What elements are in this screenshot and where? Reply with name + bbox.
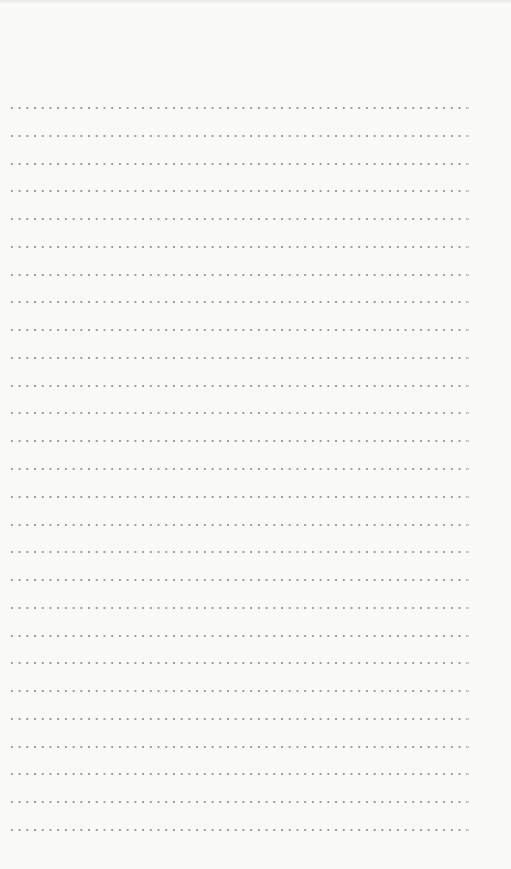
- dotted-line-end-dot: [467, 635, 469, 637]
- dotted-line-end-dot: [467, 246, 469, 248]
- dotted-line: [8, 662, 468, 664]
- dotted-line: [8, 468, 468, 470]
- dotted-line-end-dot: [467, 440, 469, 442]
- dotted-line: [8, 440, 468, 442]
- dotted-line: [8, 718, 468, 720]
- dotted-line: [8, 357, 468, 359]
- dotted-line: [8, 746, 468, 748]
- dotted-line-end-dot: [467, 524, 469, 526]
- paper-top-edge: [0, 0, 511, 4]
- dotted-line: [8, 329, 468, 331]
- dotted-line-end-dot: [467, 107, 469, 109]
- dotted-paper-sheet: [0, 0, 511, 869]
- dotted-line: [8, 524, 468, 526]
- dotted-line-end-dot: [467, 746, 469, 748]
- dotted-line: [8, 412, 468, 414]
- dotted-line: [8, 801, 468, 803]
- dotted-line-end-dot: [467, 274, 469, 276]
- dotted-line: [8, 607, 468, 609]
- dotted-line-end-dot: [467, 190, 469, 192]
- dotted-line-end-dot: [467, 218, 469, 220]
- dotted-line-end-dot: [467, 718, 469, 720]
- dotted-line: [8, 690, 468, 692]
- dotted-line: [8, 551, 468, 553]
- dotted-line-end-dot: [467, 135, 469, 137]
- dotted-line: [8, 385, 468, 387]
- dotted-line: [8, 829, 468, 831]
- dotted-line-end-dot: [467, 412, 469, 414]
- dotted-line: [8, 274, 468, 276]
- dotted-line: [8, 218, 468, 220]
- dotted-line: [8, 301, 468, 303]
- dotted-line-end-dot: [467, 829, 469, 831]
- dotted-line-end-dot: [467, 468, 469, 470]
- dotted-line-end-dot: [467, 579, 469, 581]
- dotted-line: [8, 773, 468, 775]
- dotted-line-end-dot: [467, 357, 469, 359]
- dotted-line-end-dot: [467, 163, 469, 165]
- dotted-line: [8, 135, 468, 137]
- dotted-line-end-dot: [467, 662, 469, 664]
- dotted-line: [8, 163, 468, 165]
- dotted-line-end-dot: [467, 607, 469, 609]
- dotted-line-end-dot: [467, 801, 469, 803]
- dotted-line: [8, 579, 468, 581]
- dotted-line: [8, 246, 468, 248]
- dotted-line-end-dot: [467, 496, 469, 498]
- dotted-line-end-dot: [467, 329, 469, 331]
- dotted-line-end-dot: [467, 385, 469, 387]
- dotted-line: [8, 635, 468, 637]
- dotted-line-end-dot: [467, 690, 469, 692]
- dotted-line: [8, 496, 468, 498]
- dotted-line: [8, 190, 468, 192]
- dotted-line-end-dot: [467, 773, 469, 775]
- dotted-line: [8, 107, 468, 109]
- dotted-line-end-dot: [467, 551, 469, 553]
- dotted-line-end-dot: [467, 301, 469, 303]
